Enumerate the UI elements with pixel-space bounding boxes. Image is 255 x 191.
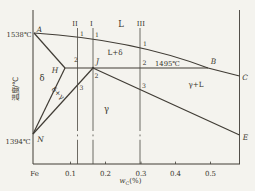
point-label-h: H (51, 66, 59, 75)
region-label-gamma: γ (104, 104, 109, 114)
temp-1495-label: 1495℃ (155, 60, 180, 68)
gamma-solidus-je-line (93, 68, 240, 135)
temp-1394-label: 1394℃ (6, 138, 31, 146)
alloy-label-ii: II (72, 20, 78, 28)
alloy-ii-point-3: 3 (80, 84, 84, 91)
x-tick-0p5: 0.5 (205, 170, 216, 178)
region-label-delta-gamma: δ+γ (50, 85, 67, 102)
alloy-label-i: I (90, 20, 93, 28)
alloy-iii-point-3: 3 (142, 82, 146, 89)
temp-1538-label: 1538℃ (7, 31, 32, 39)
region-label-gamma-l: γ+L (188, 80, 203, 89)
point-label-j: J (94, 57, 100, 66)
y-axis-label: 温度/℃ (11, 77, 20, 102)
region-label-l-delta: L+δ (107, 48, 122, 57)
alloy-label-iii: III (137, 20, 146, 28)
x-tick-fe: Fe (30, 170, 39, 178)
point-label-c: C (242, 73, 248, 82)
alloy-i-point-1: 1 (95, 31, 99, 38)
phase-diagram-canvas: 1538℃ 1394℃ 1495℃ 温度/℃ Fe 0.1 0.2 0.3 0.… (0, 0, 255, 191)
x-tick-0p2: 0.2 (100, 170, 111, 178)
region-label-liquid: L (118, 19, 124, 29)
alloy-i-point-2: 2 (95, 72, 99, 79)
delta-solidus-ah-line (34, 33, 65, 68)
alloy-iii-point-2: 2 (143, 59, 147, 66)
x-tick-0p4: 0.4 (170, 170, 182, 178)
point-label-n: N (36, 135, 44, 144)
x-tick-0p1: 0.1 (65, 170, 76, 178)
point-label-e: E (242, 133, 249, 142)
alloy-ii-point-1: 1 (80, 30, 84, 37)
alloy-ii-point-2: 2 (74, 56, 78, 63)
fe-c-phase-diagram-figure: 1538℃ 1394℃ 1495℃ 温度/℃ Fe 0.1 0.2 0.3 0.… (0, 0, 255, 191)
liquidus-bc-line (208, 68, 240, 76)
alloy-iii-point-1: 1 (143, 40, 147, 47)
region-label-delta: δ (39, 73, 44, 83)
point-label-b: B (210, 57, 217, 66)
xy-axes (33, 10, 240, 164)
x-axis-label: wC(%) (120, 177, 142, 186)
point-label-a: A (36, 25, 42, 34)
